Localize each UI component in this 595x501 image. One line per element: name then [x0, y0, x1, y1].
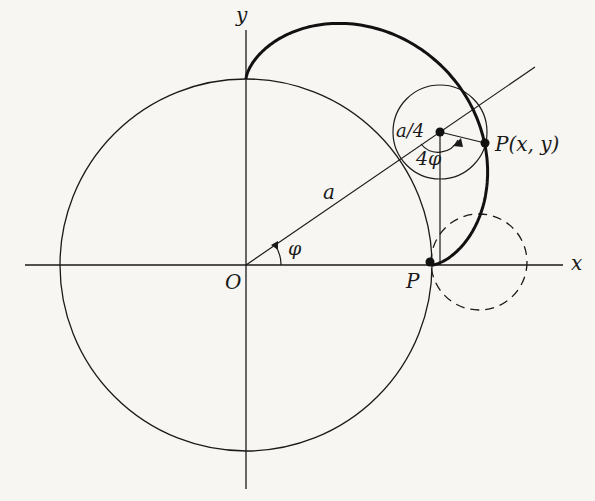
rolling-circle-start-dashed	[431, 214, 527, 310]
phi-arrowhead-icon	[271, 241, 278, 250]
x-axis-label: x	[571, 251, 582, 275]
rolling-circle-center-point	[436, 128, 445, 137]
small-radius-label: a/4	[396, 120, 424, 141]
radius-a-label: a	[323, 180, 335, 204]
four-phi-label: 4φ	[415, 147, 442, 169]
origin-label: O	[225, 270, 241, 294]
point-p-xy-label: P(x, y)	[494, 132, 559, 156]
point-p-start	[426, 258, 435, 267]
epicycloid-curve	[246, 23, 488, 265]
point-p-start-label: P	[405, 269, 420, 293]
epicycloid-diagram: x y O a φ a/4 4φ P(x, y) P	[0, 0, 595, 501]
phi-label: φ	[288, 237, 302, 259]
radius-ray	[246, 67, 535, 265]
point-p-xy	[481, 139, 490, 148]
small-radius-line	[440, 132, 485, 143]
four-phi-arrowhead-icon	[453, 138, 463, 147]
y-axis-label: y	[235, 3, 248, 27]
